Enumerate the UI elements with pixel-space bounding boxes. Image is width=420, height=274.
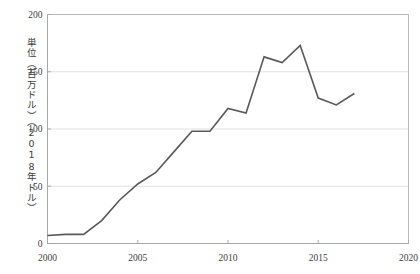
x-tick-label: 2010 [219, 253, 238, 263]
x-tick-label: 2020 [399, 253, 418, 263]
data-series-group [48, 45, 355, 235]
y-tick-label: 0 [38, 239, 43, 249]
chart-plot: 050100150200 20002005201020152020 [0, 0, 420, 274]
x-tick-label: 2015 [309, 253, 328, 263]
gridlines-group [48, 15, 409, 187]
y-tick-label: 200 [28, 10, 43, 20]
chart-container: 単位（百万ドル）（2018年ドル） 050100150200 200020052… [0, 0, 420, 274]
y-tick-label: 50 [33, 182, 43, 192]
x-tick-label: 2000 [38, 253, 57, 263]
y-tick-label: 100 [28, 124, 43, 134]
x-tick-label: 2005 [128, 253, 147, 263]
data-line [48, 45, 355, 235]
y-tick-label: 150 [28, 67, 43, 77]
